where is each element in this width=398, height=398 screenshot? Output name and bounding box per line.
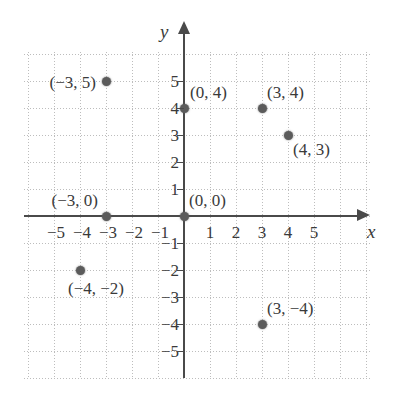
x-tick-label: 5 [299,224,329,241]
x-axis-label: x [367,221,375,243]
y-tick-label: −5 [145,343,179,360]
y-tick-label: 1 [145,181,179,198]
y-axis-tick-mark [177,135,184,136]
y-tick-label: −4 [145,316,179,333]
data-point [76,266,85,275]
y-tick-label: 5 [145,73,179,90]
coordinate-plane-figure: x y −5−4−3−2−11234554321−1−2−3−4−5 (−3, … [0,0,398,398]
x-axis-line [24,215,362,217]
data-point-label: (−4, −2) [68,280,124,297]
data-point [284,131,293,140]
data-point [258,320,267,329]
grid-line-horizontal [24,189,371,190]
y-axis-tick-mark [177,297,184,298]
data-point-label: (0, 4) [190,84,227,101]
data-point-label: (−3, 0) [0,192,98,209]
data-point [102,212,111,221]
y-axis-tick-mark [177,81,184,82]
grid-line-horizontal [24,324,371,325]
data-point-label: (3, 4) [267,84,304,101]
data-point-label: (3, −4) [267,300,313,317]
y-tick-label: −3 [145,289,179,306]
y-axis-tick-mark [177,162,184,163]
grid-line-horizontal [24,162,371,163]
grid-line-horizontal [24,351,371,352]
y-axis-label: y [160,21,168,43]
y-tick-label: 4 [145,100,179,117]
y-tick-label: −2 [145,262,179,279]
data-point-label: (−3, 5) [0,74,96,91]
grid-line-horizontal [24,108,371,109]
y-axis-line [183,30,185,378]
data-point [180,212,189,221]
y-axis-tick-mark [177,189,184,190]
y-tick-label: −1 [145,235,179,252]
grid-line-horizontal [24,378,371,379]
data-point-label: (0, 0) [189,192,226,209]
y-axis-tick-mark [177,324,184,325]
y-axis-tick-mark [177,243,184,244]
y-axis-arrow-icon [178,21,190,34]
data-point-label: (4, 3) [293,141,330,158]
data-point [102,77,111,86]
x-axis-arrow-icon [357,209,370,221]
y-axis-tick-mark [177,108,184,109]
y-axis-tick-mark [177,270,184,271]
y-axis-tick-mark [177,351,184,352]
grid-line-horizontal [24,243,371,244]
grid-line-horizontal [24,135,371,136]
y-tick-label: 3 [145,127,179,144]
y-tick-label: 2 [145,154,179,171]
data-point [258,104,267,113]
grid-line-horizontal [24,54,371,55]
